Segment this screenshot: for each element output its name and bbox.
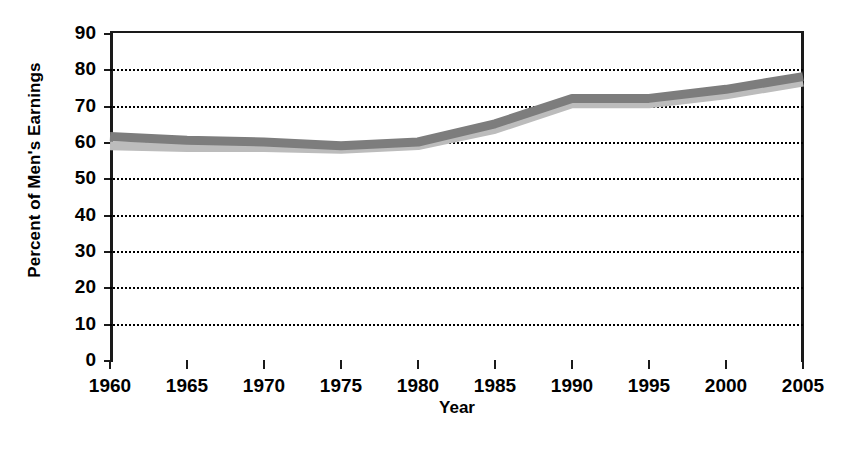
y-tick-label-30: 30 [36,241,96,260]
y-tick-label-40: 40 [36,205,96,224]
plot-area [110,33,803,360]
x-tick-label-1960: 1960 [70,376,150,395]
line-chart: Percent of Men's Earnings 01020304050607… [0,0,861,467]
y-tick-label-10: 10 [36,314,96,333]
y-tick-label-70: 70 [36,96,96,115]
x-tick-label-1980: 1980 [378,376,458,395]
x-tick-label-1970: 1970 [224,376,304,395]
x-tick-mark-1995 [648,360,650,369]
x-tick-label-1995: 1995 [609,376,689,395]
x-tick-mark-1990 [571,360,573,369]
x-tick-label-1990: 1990 [532,376,612,395]
x-tick-mark-2000 [725,360,727,369]
y-tick-label-0: 0 [36,350,96,369]
x-tick-mark-1985 [494,360,496,369]
x-tick-label-2000: 2000 [686,376,766,395]
series-group [110,33,803,360]
x-tick-mark-1980 [417,360,419,369]
x-axis-title: Year [110,398,804,418]
y-tick-label-20: 20 [36,277,96,296]
y-tick-label-50: 50 [36,168,96,187]
x-tick-mark-1975 [340,360,342,369]
series-line-upper-band-line [110,77,803,146]
y-tick-label-80: 80 [36,59,96,78]
x-tick-label-1985: 1985 [455,376,535,395]
y-tick-label-60: 60 [36,132,96,151]
x-tick-label-2005: 2005 [763,376,843,395]
x-tick-mark-1960 [109,360,111,369]
x-tick-mark-1970 [263,360,265,369]
x-tick-label-1975: 1975 [301,376,381,395]
x-tick-mark-2005 [802,360,804,369]
x-tick-label-1965: 1965 [147,376,227,395]
x-tick-mark-1965 [186,360,188,369]
y-tick-label-90: 90 [36,23,96,42]
